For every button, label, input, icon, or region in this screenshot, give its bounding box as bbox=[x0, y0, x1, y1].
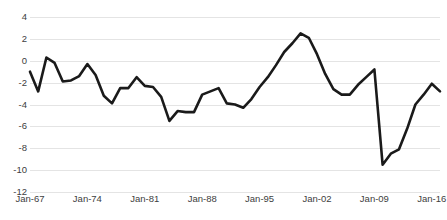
x-tick-label: Jan-88 bbox=[188, 194, 217, 204]
y-tick-label: -10 bbox=[3, 165, 27, 175]
x-tick-label: Jan-67 bbox=[15, 194, 44, 204]
y-tick-label: -2 bbox=[3, 78, 27, 88]
plot-area bbox=[30, 17, 440, 192]
x-axis: Jan-67Jan-74Jan-81Jan-88Jan-95Jan-02Jan-… bbox=[30, 194, 440, 214]
line-chart: 420-2-4-6-8-10-12 Jan-67Jan-74Jan-81Jan-… bbox=[0, 0, 447, 220]
y-tick-label: 0 bbox=[3, 56, 27, 66]
y-tick-label: 4 bbox=[3, 12, 27, 22]
y-axis: 420-2-4-6-8-10-12 bbox=[0, 17, 27, 192]
x-tick-label: Jan-16 bbox=[417, 194, 446, 204]
y-tick-label: -6 bbox=[3, 122, 27, 132]
x-tick-label: Jan-74 bbox=[73, 194, 102, 204]
x-tick-label: Jan-95 bbox=[245, 194, 274, 204]
y-tick-label: -4 bbox=[3, 100, 27, 110]
x-tick-label: Jan-02 bbox=[302, 194, 331, 204]
y-tick-label: -8 bbox=[3, 144, 27, 154]
series-line bbox=[30, 17, 440, 192]
x-tick-label: Jan-81 bbox=[130, 194, 159, 204]
y-tick-label: 2 bbox=[3, 34, 27, 44]
x-tick-label: Jan-09 bbox=[360, 194, 389, 204]
series-1-polyline bbox=[30, 33, 440, 164]
